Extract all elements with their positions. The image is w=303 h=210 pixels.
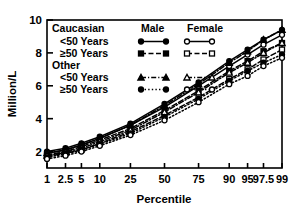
x-tick-label: 50: [158, 173, 170, 185]
legend-key-marker-female-1: [210, 51, 215, 56]
legend-key-marker-male-1: [164, 51, 169, 56]
data-point: [245, 68, 250, 73]
legend-key-marker-female-3: [185, 87, 190, 92]
x-tick-label: 99: [276, 173, 288, 185]
data-point: [245, 73, 250, 78]
percentile-chart: 246810 12.5510255075909597.599 Million/L…: [0, 0, 303, 210]
legend-group-caucasian: Caucasian: [52, 22, 105, 34]
legend-group-other: Other: [52, 59, 80, 71]
legend-key-marker-male-0: [164, 39, 169, 44]
legend-key-marker-female-3: [210, 87, 215, 92]
data-point: [79, 149, 84, 154]
legend-key-marker-female-1: [185, 51, 190, 56]
legend-key-marker-male-3: [164, 87, 169, 92]
x-tick-label: 25: [124, 173, 136, 185]
data-point: [227, 82, 232, 87]
data-point: [280, 32, 285, 37]
data-point: [261, 42, 266, 47]
y-tick-label: 8: [36, 47, 43, 59]
legend-key-marker-male-1: [139, 51, 144, 56]
chart-container: 246810 12.5510255075909597.599 Million/L…: [0, 0, 303, 210]
data-point: [280, 55, 285, 60]
legend-key-marker-male-0: [139, 39, 144, 44]
data-point: [97, 143, 102, 148]
x-tick-label: 90: [223, 173, 235, 185]
data-point: [196, 100, 201, 105]
legend-row-other-over50: ≥50 Years: [60, 83, 108, 95]
legend-row-caucasian-under50: <50 Years: [60, 35, 109, 47]
y-tick-label: 10: [29, 14, 42, 26]
x-axis-label: Percentile: [137, 193, 192, 205]
x-tick-label: 1: [44, 173, 50, 185]
x-tick-label: 2.5: [58, 173, 73, 185]
y-tick-label: 4: [36, 113, 43, 125]
x-tick-label: 97.5: [253, 173, 274, 185]
data-point: [162, 118, 167, 123]
legend-key-marker-female-0: [185, 39, 190, 44]
y-tick-label: 6: [36, 80, 42, 92]
x-tick-label: 10: [94, 173, 106, 185]
data-point: [45, 156, 50, 161]
x-tick-label: 75: [192, 173, 204, 185]
legend-row-other-under50: <50 Years: [60, 71, 109, 83]
data-point: [63, 153, 68, 158]
legend-key-marker-female-0: [210, 39, 215, 44]
data-point: [261, 64, 266, 69]
x-axis-tick-labels: 12.5510255075909597.599: [44, 173, 288, 185]
legend-column-female: Female: [187, 22, 223, 34]
legend-row-caucasian-over50: ≥50 Years: [60, 47, 108, 59]
data-point: [280, 47, 285, 52]
x-tick-label: 5: [78, 173, 84, 185]
legend-key-marker-male-3: [139, 87, 144, 92]
y-tick-label: 2: [36, 146, 42, 158]
legend-column-male: Male: [141, 22, 165, 34]
data-point: [128, 133, 133, 138]
y-axis-label: Million/L: [6, 71, 18, 118]
